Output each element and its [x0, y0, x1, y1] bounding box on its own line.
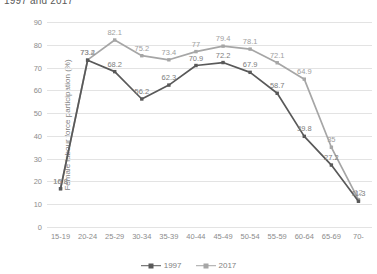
data-label: 79.4 — [216, 34, 231, 43]
data-label: 78.1 — [243, 37, 258, 46]
data-label: 73.4 — [162, 48, 177, 57]
legend-item-2017[interactable]: 2017 — [196, 261, 237, 270]
chart-container: 1997 and 2017 Female labour force partic… — [0, 0, 377, 274]
legend-swatch-icon — [196, 262, 216, 270]
data-point-marker — [221, 44, 224, 47]
data-point-marker — [140, 97, 143, 100]
data-point-marker — [357, 200, 360, 203]
data-label: 56.2 — [134, 87, 149, 96]
data-label: 67.9 — [243, 60, 258, 69]
legend-label: 2017 — [219, 261, 237, 270]
data-point-marker — [276, 92, 279, 95]
x-axis-tick-label: 20-24 — [78, 232, 97, 241]
y-axis-tick-label: 90 — [34, 18, 42, 27]
data-point-marker — [113, 38, 116, 41]
data-point-marker — [140, 54, 143, 57]
y-axis-tick-label: 50 — [34, 109, 42, 118]
legend-swatch-icon — [141, 262, 161, 270]
x-axis-tick-label: 15-19 — [51, 232, 70, 241]
grid-line — [47, 227, 372, 228]
data-point-marker — [167, 58, 170, 61]
data-label: 68.2 — [107, 60, 122, 69]
data-point-marker — [276, 61, 279, 64]
y-axis-tick-label: 60 — [34, 86, 42, 95]
data-point-marker — [167, 83, 170, 86]
data-label: 70.9 — [189, 54, 204, 63]
legend-label: 1997 — [164, 261, 182, 270]
data-point-marker — [221, 61, 224, 64]
x-axis-tick-label: 45-49 — [213, 232, 232, 241]
data-label: 35 — [327, 135, 335, 144]
data-point-marker — [59, 187, 62, 190]
chart-title: 1997 and 2017 — [4, 0, 73, 6]
data-label: 12 — [354, 188, 362, 197]
x-axis-tick-label: 40-44 — [186, 232, 205, 241]
x-axis-tick-label: 25-29 — [105, 232, 124, 241]
data-label: 77 — [192, 40, 200, 49]
data-label: 82.1 — [107, 28, 122, 37]
y-axis-tick-label: 70 — [34, 63, 42, 72]
data-point-marker — [303, 135, 306, 138]
chart-legend: 19972017 — [0, 261, 377, 270]
data-label: 16.8 — [53, 177, 68, 186]
data-label: 75.2 — [134, 44, 149, 53]
data-label: 58.7 — [270, 81, 285, 90]
data-label: 72.2 — [216, 51, 231, 60]
y-axis-tick-label: 40 — [34, 131, 42, 140]
x-axis-tick-label: 50-54 — [241, 232, 260, 241]
data-label: 72.1 — [270, 51, 285, 60]
plot-area: 0102030405060708090 15-1920-2425-2930-34… — [47, 22, 372, 227]
data-point-marker — [248, 47, 251, 50]
data-label: 27.2 — [324, 153, 339, 162]
y-axis-tick-label: 30 — [34, 154, 42, 163]
y-axis-tick-label: 10 — [34, 200, 42, 209]
series-lines — [47, 22, 372, 227]
data-label: 39.8 — [297, 124, 312, 133]
data-point-marker — [113, 70, 116, 73]
data-label: 73.4 — [80, 48, 95, 57]
data-point-marker — [330, 146, 333, 149]
x-axis-tick-label: 30-34 — [132, 232, 151, 241]
data-point-marker — [303, 77, 306, 80]
x-axis-tick-label: 60-64 — [295, 232, 314, 241]
data-point-marker — [330, 163, 333, 166]
x-axis-tick-label: 55-59 — [268, 232, 287, 241]
data-point-marker — [194, 64, 197, 67]
data-point-marker — [86, 59, 89, 62]
y-axis-label-wrap: Female labour force participation (%) — [0, 22, 14, 227]
y-axis-tick-label: 20 — [34, 177, 42, 186]
x-axis-tick-label: 70- — [353, 232, 364, 241]
data-label: 64.9 — [297, 67, 312, 76]
data-point-marker — [248, 71, 251, 74]
y-axis-tick-label: 0 — [38, 223, 42, 232]
legend-item-1997[interactable]: 1997 — [141, 261, 182, 270]
x-axis-tick-label: 65-69 — [322, 232, 341, 241]
data-label: 62.3 — [162, 73, 177, 82]
y-axis-tick-label: 80 — [34, 40, 42, 49]
x-axis-tick-label: 35-39 — [159, 232, 178, 241]
series-line-1997 — [61, 60, 359, 201]
